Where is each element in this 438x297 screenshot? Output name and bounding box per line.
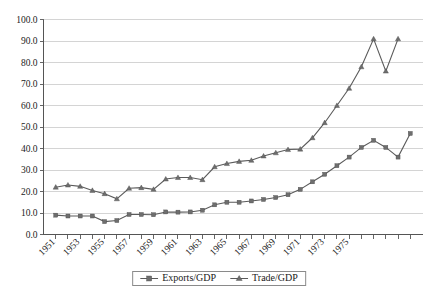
data-point-marker[interactable] [176,210,180,214]
data-point-marker[interactable] [395,36,400,41]
data-point-marker[interactable] [249,199,253,203]
x-axis-tick-label: 1957 [110,237,131,258]
x-axis-tick-label: 1955 [86,237,107,258]
x-axis-tick-label: 1965 [208,237,229,258]
data-point-marker[interactable] [200,208,204,212]
data-point-marker[interactable] [310,180,314,184]
y-axis-tick-label: 0.0 [26,230,38,240]
x-axis-tick-label: 1961 [159,237,180,258]
x-axis-tick-label: 1971 [281,237,302,258]
data-point-marker[interactable] [347,155,351,159]
legend-item-exports-gdp[interactable]: Exports/GDP [140,273,216,283]
chart-container: 0.010.020.030.040.050.060.070.080.090.01… [0,0,438,297]
legend-label-exports-gdp: Exports/GDP [162,273,216,283]
data-point-marker[interactable] [225,200,229,204]
y-axis-tick-label: 40.0 [21,144,38,154]
data-point-marker[interactable] [213,203,217,207]
data-point-marker[interactable] [103,220,107,224]
data-point-marker[interactable] [286,193,290,197]
square-marker-icon [140,274,158,283]
data-point-marker[interactable] [115,219,119,223]
line-chart-plot: 0.010.020.030.040.050.060.070.080.090.01… [0,0,438,297]
x-axis-tick-label: 1951 [37,237,58,258]
data-point-marker[interactable] [66,214,70,218]
x-axis-tick-label: 1969 [257,237,278,258]
x-axis-tick-label: 1973 [306,237,327,258]
data-point-marker[interactable] [371,36,376,41]
x-axis-tick-label: 1959 [134,237,155,258]
triangle-marker-icon [230,274,248,283]
data-point-marker[interactable] [237,200,241,204]
data-point-marker[interactable] [54,213,58,217]
y-axis-tick-label: 60.0 [21,101,38,111]
data-point-marker[interactable] [359,64,364,69]
y-axis-tick-label: 10.0 [21,208,38,218]
y-axis-tick-label: 30.0 [21,165,38,175]
data-point-marker[interactable] [188,210,192,214]
data-point-marker[interactable] [78,214,82,218]
x-axis-tick-label: 1975 [330,237,351,258]
data-point-marker[interactable] [139,213,143,217]
data-point-marker[interactable] [359,145,363,149]
y-axis-tick-label: 50.0 [21,122,38,132]
y-axis-tick-label: 20.0 [21,187,38,197]
data-point-marker[interactable] [164,210,168,214]
data-point-marker[interactable] [152,213,156,217]
data-point-marker[interactable] [372,138,376,142]
chart-legend: Exports/GDP Trade/GDP [132,271,306,286]
data-point-marker[interactable] [127,213,131,217]
data-point-marker[interactable] [262,197,266,201]
data-point-marker[interactable] [274,196,278,200]
data-point-marker[interactable] [384,145,388,149]
data-point-marker[interactable] [335,164,339,168]
data-point-marker[interactable] [396,155,400,159]
data-point-marker[interactable] [408,131,412,135]
y-axis-tick-label: 100.0 [16,15,38,25]
x-axis-tick-label: 1967 [232,237,253,258]
x-axis-tick-label: 1953 [61,237,82,258]
legend-label-trade-gdp: Trade/GDP [252,273,298,283]
data-point-marker[interactable] [383,69,388,74]
y-axis-tick-label: 90.0 [21,36,38,46]
legend-item-trade-gdp[interactable]: Trade/GDP [230,273,298,283]
data-point-marker[interactable] [90,214,94,218]
x-axis-tick-label: 1963 [183,237,204,258]
y-axis-tick-label: 70.0 [21,79,38,89]
y-axis-tick-label: 80.0 [21,58,38,68]
series-line-exports-gdp [56,133,411,221]
data-point-marker[interactable] [347,86,352,91]
data-point-marker[interactable] [323,172,327,176]
data-point-marker[interactable] [298,187,302,191]
